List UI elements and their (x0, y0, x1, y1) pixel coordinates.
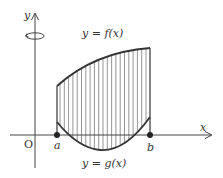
curve-f-label: y = f(x) (81, 27, 123, 40)
origin-label: O (24, 138, 33, 151)
curve-g (57, 117, 150, 150)
x-axis-label: x (200, 121, 207, 134)
point-a (54, 132, 60, 138)
curve-g-label: y = g(x) (81, 157, 126, 170)
y-axis-label: y (23, 9, 31, 22)
x-axis (10, 132, 212, 139)
point-b (147, 132, 153, 138)
point-b-label: b (147, 141, 154, 154)
curve-f (57, 48, 150, 86)
point-a-label: a (54, 139, 61, 152)
diagram-canvas: y x O a b y = f(x) y = g(x) (0, 0, 223, 178)
